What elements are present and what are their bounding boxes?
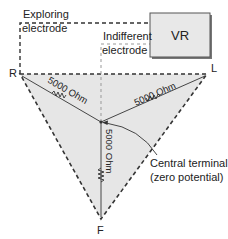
central-terminal-label-1: Central terminal (150, 157, 228, 169)
central-node (99, 120, 102, 123)
vertex-l-label: L (211, 62, 217, 74)
einthoven-central-terminal-diagram: VR 5000 Ohm 5000 Ohm 5000 Ohm R L F Expl… (0, 0, 228, 239)
central-terminal-label-2: (zero potential) (150, 171, 223, 183)
voltmeter-label: VR (171, 28, 189, 43)
indifferent-electrode-label-1: Indifferent (103, 30, 152, 42)
vertex-f-label: F (97, 224, 104, 236)
vertex-r-label: R (9, 67, 17, 79)
indifferent-electrode-label-2: electrode (102, 44, 147, 56)
exploring-electrode-label-1: Exploring (23, 8, 69, 20)
exploring-electrode-label-2: electrode (22, 22, 67, 34)
resistor-fc-label: 5000 Ohm (104, 129, 115, 173)
